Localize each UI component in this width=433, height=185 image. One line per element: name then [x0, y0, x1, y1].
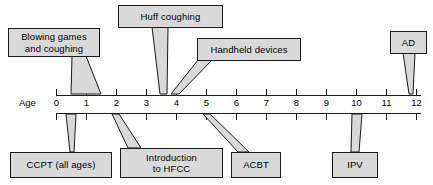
- pointer-ipv: [351, 114, 362, 152]
- axis-tick-4: 4: [170, 98, 184, 108]
- axis-tick-0: 0: [50, 98, 64, 108]
- pointer-ccpt: [66, 114, 76, 152]
- callout-huff-coughing[interactable]: Huff coughing: [118, 5, 223, 28]
- axis-tick-5: 5: [200, 98, 214, 108]
- axis-tick-11: 11: [380, 98, 394, 108]
- callout-ccpt[interactable]: CCPT (all ages): [10, 152, 112, 178]
- axis-tick-8: 8: [290, 98, 304, 108]
- pointer-acbt: [203, 114, 249, 152]
- upper-axis-ticks: [57, 89, 417, 96]
- axis-tick-10: 10: [350, 98, 364, 108]
- axis-tick-7: 7: [260, 98, 274, 108]
- pointer-huff-coughing: [152, 27, 168, 94]
- axis-tick-1: 1: [80, 98, 94, 108]
- axis-tick-6: 6: [230, 98, 244, 108]
- axis-tick-2: 2: [110, 98, 124, 108]
- pointer-blowing-games: [71, 56, 101, 94]
- age-timeline-figure: Age 0 1 2 3 4 5 6 7 8 9 10 11 12 Blowing…: [0, 0, 433, 185]
- pointer-handheld-devices: [171, 60, 212, 94]
- pointer-introduction-hfcc: [112, 114, 141, 148]
- pointer-ad: [403, 53, 415, 94]
- callout-blowing-games[interactable]: Blowing games and coughing: [8, 28, 100, 57]
- callout-ad[interactable]: AD: [390, 31, 427, 54]
- callout-introduction-hfcc[interactable]: Introduction to HFCC: [120, 148, 223, 178]
- lower-axis-ticks: [57, 114, 417, 121]
- axis-tick-12: 12: [410, 98, 424, 108]
- axis-tick-9: 9: [320, 98, 334, 108]
- callout-acbt[interactable]: ACBT: [231, 152, 281, 178]
- axis-label-age: Age: [19, 98, 36, 108]
- callout-handheld-devices[interactable]: Handheld devices: [197, 38, 301, 61]
- axis-tick-3: 3: [140, 98, 154, 108]
- callout-ipv[interactable]: IPV: [332, 152, 378, 178]
